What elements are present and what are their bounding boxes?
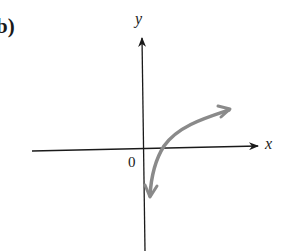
origin-label: 0 <box>128 154 136 171</box>
y-axis-label: y <box>135 10 142 28</box>
x-axis <box>32 146 258 151</box>
graph-figure: b) y x 0 <box>0 0 284 251</box>
y-axis <box>142 38 145 251</box>
log-curve <box>150 110 229 196</box>
x-axis-label: x <box>265 135 272 153</box>
graph-svg <box>0 0 284 251</box>
part-label: b) <box>0 14 15 39</box>
